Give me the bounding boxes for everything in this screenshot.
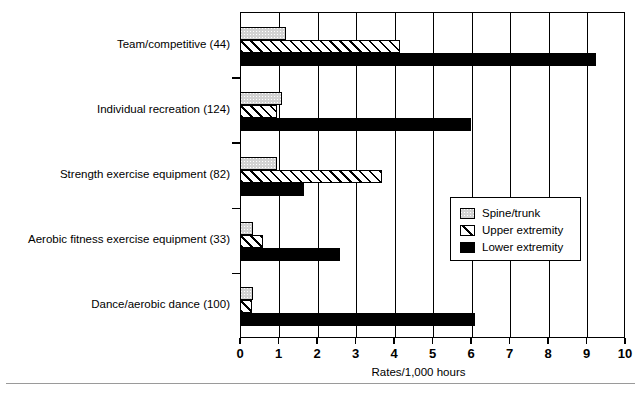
bar-upper <box>240 235 263 248</box>
legend-label: Upper extremity <box>482 224 563 236</box>
category-tick-4 <box>232 273 240 274</box>
legend-box: Spine/trunkUpper extremityLower extremit… <box>450 197 581 261</box>
category-tick-2 <box>232 142 240 143</box>
legend-swatch-upper-icon <box>460 225 475 236</box>
x-tick-label: 4 <box>379 346 409 361</box>
category-label: Team/competitive (44) <box>117 38 230 51</box>
x-tick-label: 6 <box>456 346 486 361</box>
x-tick-1 <box>278 338 279 344</box>
bar-spine <box>240 92 282 105</box>
bar-lower <box>240 118 471 131</box>
x-tick-0 <box>239 338 240 344</box>
x-tick-label: 0 <box>225 346 255 361</box>
x-tick-label: 8 <box>533 346 563 361</box>
category-tick-3 <box>232 208 240 209</box>
bar-upper <box>240 40 400 53</box>
x-tick-label: 9 <box>572 346 602 361</box>
x-tick-label: 5 <box>418 346 448 361</box>
bar-spine <box>240 222 253 235</box>
bar-upper <box>240 300 252 313</box>
bottom-divider <box>6 383 635 384</box>
bar-lower <box>240 313 475 326</box>
legend-swatch-lower-icon <box>460 242 475 253</box>
x-tick-7 <box>509 338 510 344</box>
x-tick-6 <box>470 338 471 344</box>
bar-chart: Team/competitive (44)Individual recreati… <box>0 0 641 393</box>
x-tick-2 <box>316 338 317 344</box>
bar-lower <box>240 248 340 261</box>
legend-item[interactable]: Lower extremity <box>460 240 563 254</box>
bar-lower <box>240 53 596 66</box>
bar-spine <box>240 287 253 300</box>
x-tick-3 <box>355 338 356 344</box>
legend-item[interactable]: Spine/trunk <box>460 206 540 220</box>
category-label: Individual recreation (124) <box>97 103 230 116</box>
x-axis-title-text: Rates/1,000 hours <box>372 366 466 378</box>
category-label: Dance/aerobic dance (100) <box>91 298 230 311</box>
bar-upper <box>240 170 382 183</box>
category-label: Strength exercise equipment (82) <box>60 168 230 181</box>
x-tick-label: 7 <box>495 346 525 361</box>
category-tick-1 <box>232 77 240 78</box>
x-tick-4 <box>393 338 394 344</box>
x-tick-label: 10 <box>610 346 640 361</box>
bar-upper <box>240 105 277 118</box>
legend-swatch-spine-icon <box>460 208 475 219</box>
x-tick-5 <box>432 338 433 344</box>
x-axis-title: Rates/1,000 hours <box>0 366 641 378</box>
bar-spine <box>240 157 277 170</box>
bar-lower <box>240 183 304 196</box>
category-label: Aerobic fitness exercise equipment (33) <box>28 233 230 246</box>
x-tick-label: 2 <box>302 346 332 361</box>
x-tick-label: 3 <box>341 346 371 361</box>
x-tick-10 <box>624 338 625 344</box>
legend-label: Lower extremity <box>482 241 563 253</box>
x-tick-8 <box>547 338 548 344</box>
x-tick-label: 1 <box>264 346 294 361</box>
x-tick-9 <box>586 338 587 344</box>
legend-label: Spine/trunk <box>482 207 540 219</box>
legend-item[interactable]: Upper extremity <box>460 223 563 237</box>
bar-spine <box>240 27 286 40</box>
